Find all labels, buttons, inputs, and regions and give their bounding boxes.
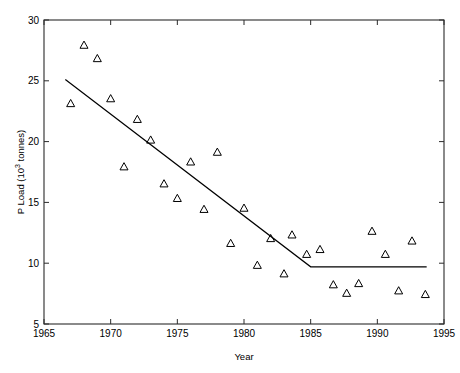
y-axis-label-text: P Load (103 tonnes) — [14, 130, 26, 215]
x-tick-label: 1995 — [433, 328, 456, 339]
chart-figure: 1965197019751980198519901995 51015202530… — [0, 0, 460, 373]
y-tick-label: 20 — [28, 136, 40, 147]
figure-background — [0, 0, 460, 373]
x-axis-label: Year — [234, 351, 253, 362]
y-tick-label: 30 — [28, 15, 40, 26]
y-tick-label: 10 — [28, 258, 40, 269]
x-tick-label: 1985 — [300, 328, 323, 339]
x-tick-label: 1975 — [166, 328, 189, 339]
y-tick-label: 15 — [28, 197, 40, 208]
y-tick-label: 25 — [28, 75, 40, 86]
x-tick-label: 1990 — [366, 328, 389, 339]
x-tick-label: 1980 — [233, 328, 256, 339]
y-tick-label: 5 — [33, 319, 39, 330]
y-axis-label: P Load (103 tonnes) — [14, 130, 26, 215]
x-tick-label: 1970 — [100, 328, 123, 339]
scatter-plot-svg: 1965197019751980198519901995 51015202530… — [0, 0, 460, 373]
x-tick-label: 1965 — [33, 328, 56, 339]
